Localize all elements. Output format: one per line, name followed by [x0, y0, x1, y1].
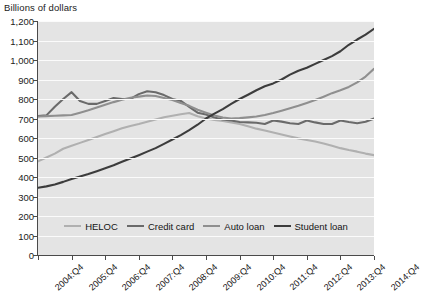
- y-axis-tick-label: 1,100: [10, 35, 34, 46]
- x-axis-tick-label: 2013:Q4: [355, 262, 387, 293]
- gridline: [38, 80, 374, 81]
- y-axis-tick: [33, 216, 37, 217]
- y-axis-tick-label: 300: [18, 191, 34, 202]
- x-axis-tick-label: 2007:Q4: [154, 262, 186, 293]
- legend-swatch: [274, 225, 291, 228]
- y-axis-tick-label: 600: [18, 133, 34, 144]
- x-axis-tick: [340, 256, 341, 260]
- y-axis-tick: [33, 255, 37, 256]
- y-axis-tick-label: 200: [18, 211, 34, 222]
- y-axis-tick: [33, 60, 37, 61]
- x-axis-tick: [38, 256, 39, 260]
- x-axis-tick: [172, 256, 173, 260]
- y-axis-tick: [33, 99, 37, 100]
- legend-swatch: [64, 225, 81, 228]
- gridline: [38, 138, 374, 139]
- x-axis-tick: [374, 256, 375, 260]
- x-axis-tick: [206, 256, 207, 260]
- x-axis-tick: [240, 256, 241, 260]
- y-axis-tick-label: 900: [18, 74, 34, 85]
- y-axis-tick-label: 1,200: [10, 16, 34, 27]
- y-axis-tick-label: 400: [18, 172, 34, 183]
- gridline: [38, 236, 374, 237]
- legend-item-student-loan[interactable]: Student loan: [274, 221, 348, 232]
- y-axis-tick: [33, 158, 37, 159]
- y-axis-tick-label: 100: [18, 230, 34, 241]
- gridline: [38, 41, 374, 42]
- x-axis-tick: [72, 256, 73, 260]
- gridline: [38, 197, 374, 198]
- y-axis-tick-label: 1,000: [10, 55, 34, 66]
- y-axis-tick: [33, 80, 37, 81]
- legend-swatch: [203, 225, 220, 228]
- x-axis-tick-label: 2009:Q4: [221, 262, 253, 293]
- gridline: [38, 119, 374, 120]
- gridline: [38, 216, 374, 217]
- legend-item-auto-loan[interactable]: Auto loan: [203, 221, 264, 232]
- gridline: [38, 99, 374, 100]
- x-axis-tick-label: 2008:Q4: [187, 262, 219, 293]
- legend-label: Auto loan: [224, 221, 264, 232]
- x-axis-tick-label: 2012:Q4: [322, 262, 354, 293]
- y-axis-labels: 01002003004005006007008009001,0001,1001,…: [0, 21, 34, 255]
- y-axis-tick-label: 700: [18, 113, 34, 124]
- y-axis-tick: [33, 138, 37, 139]
- y-axis-tick: [33, 21, 37, 22]
- y-axis-tick: [33, 41, 37, 42]
- series-line-student-loan: [38, 29, 374, 188]
- y-axis-tick: [33, 197, 37, 198]
- gridline: [38, 177, 374, 178]
- x-axis-tick-label: 2014:Q4: [389, 262, 421, 293]
- gridline: [38, 60, 374, 61]
- x-axis-tick-label: 2004:Q4: [53, 262, 85, 293]
- legend-item-credit-card[interactable]: Credit card: [127, 221, 194, 232]
- chart-legend: HELOCCredit cardAuto loanStudent loan: [38, 218, 374, 234]
- y-axis-tick: [33, 236, 37, 237]
- x-axis-tick-label: 2006:Q4: [120, 262, 152, 293]
- y-axis-tick: [33, 119, 37, 120]
- x-axis-tick: [273, 256, 274, 260]
- legend-label: HELOC: [85, 221, 118, 232]
- legend-swatch: [127, 225, 144, 228]
- gridline: [38, 158, 374, 159]
- y-axis-tick: [33, 177, 37, 178]
- y-axis-title: Billions of dollars: [4, 2, 77, 13]
- legend-item-heloc[interactable]: HELOC: [64, 221, 118, 232]
- x-axis-tick: [105, 256, 106, 260]
- y-axis-tick-label: 800: [18, 94, 34, 105]
- x-axis-tick-label: 2011:Q4: [288, 262, 320, 292]
- x-axis-tick-label: 2005:Q4: [86, 262, 118, 293]
- x-axis-tick: [139, 256, 140, 260]
- x-axis-tick-label: 2010:Q4: [254, 262, 286, 293]
- y-axis-tick-label: 500: [18, 152, 34, 163]
- legend-label: Credit card: [148, 221, 194, 232]
- legend-label: Student loan: [295, 221, 348, 232]
- gridline: [38, 21, 374, 22]
- x-axis-tick: [307, 256, 308, 260]
- series-line-auto-loan: [38, 69, 374, 119]
